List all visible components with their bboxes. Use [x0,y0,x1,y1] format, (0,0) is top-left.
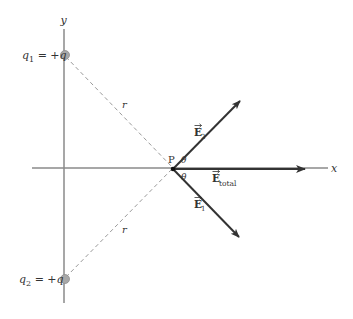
angle-theta-lower: θ [181,172,187,182]
y-axis-label: y [60,14,68,27]
distance-line-q2-to-p [66,168,173,277]
distance-label-r-bottom: r [122,224,128,235]
distance-line-q1-to-p [66,57,173,168]
vector-e2-label: E 2 [194,124,205,141]
point-p-label: P [168,154,175,165]
electric-field-diagram: y x r r q1 = +q q2 = +q P θ θ E 2 E 1 E … [0,0,353,319]
x-axis-label: x [331,162,338,175]
svg-text:1: 1 [201,205,205,213]
charge-q2-label: q2 = +q [19,273,64,288]
svg-text:2: 2 [201,133,205,141]
distance-label-r-top: r [122,99,128,110]
point-p [171,167,176,172]
svg-text:total: total [219,179,237,188]
vector-e1-label: E 1 [194,196,205,213]
charge-q1-label: q1 = +q [22,49,67,64]
angle-theta-upper: θ [181,155,187,165]
vector-e-total-label: E total [212,170,237,188]
